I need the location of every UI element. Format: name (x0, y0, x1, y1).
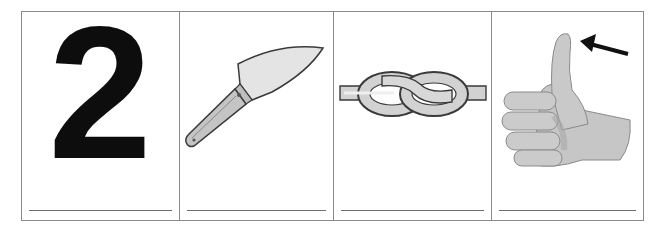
rebus-worksheet: 2 (21, 11, 644, 221)
panel-knot (333, 12, 491, 220)
answer-line-2[interactable] (187, 210, 326, 211)
answer-line-3[interactable] (341, 210, 484, 211)
panel-thumb (491, 12, 643, 220)
knot-icon (334, 64, 492, 144)
panel-digit-two: 2 (22, 12, 179, 220)
answer-line-1[interactable] (29, 210, 172, 211)
thumbs-up-icon (492, 20, 645, 180)
panel-knife (179, 12, 333, 220)
knife-icon (180, 22, 334, 162)
answer-line-4[interactable] (499, 210, 636, 211)
digit-two: 2 (41, 12, 159, 172)
